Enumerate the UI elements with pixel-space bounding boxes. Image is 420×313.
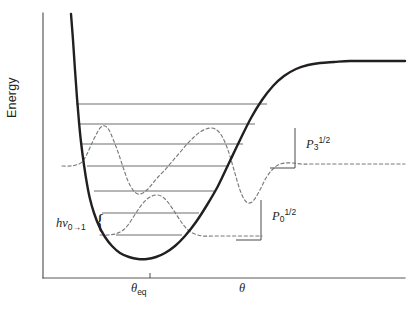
theta-eq-subscript: eq: [137, 287, 146, 297]
x-tick-label-theta-eq: θeq: [131, 281, 146, 297]
p0-amplitude-label: P01/2: [272, 207, 296, 224]
p0-base-symbol: P: [272, 209, 280, 223]
p3-amplitude-label: P31/2: [306, 135, 330, 152]
probability-density-p3: [62, 126, 405, 203]
transition-subscript: 0→1: [68, 222, 86, 232]
transition-brace: {: [95, 209, 105, 234]
p3-base-symbol: P: [306, 137, 314, 151]
y-axis-title: Energy: [5, 77, 19, 118]
probability-density-p0: [100, 195, 262, 236]
morse-potential-curve: [71, 14, 405, 259]
axes-group: [43, 13, 405, 278]
p0-superscript: 1/2: [284, 207, 296, 217]
x-axis-title: θ: [239, 281, 245, 296]
potential-energy-plot: [0, 0, 420, 313]
photon-transition-label: hν0→1: [56, 216, 86, 232]
p3-superscript: 1/2: [318, 135, 330, 145]
morse-potential-figure: Energy θeq θ hν0→1 { P31/2 P01/2: [0, 0, 420, 313]
probability-density-curves-group: [62, 126, 405, 236]
